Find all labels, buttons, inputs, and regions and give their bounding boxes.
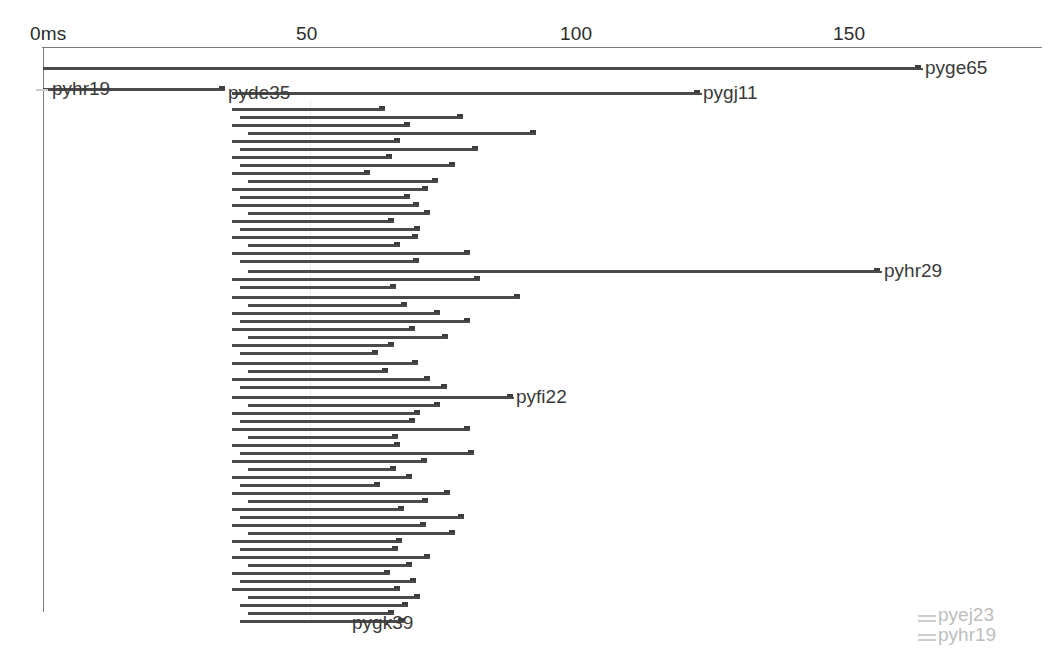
timeline-bar[interactable] bbox=[248, 304, 407, 307]
timeline-bar[interactable] bbox=[232, 108, 385, 111]
timeline-bar[interactable] bbox=[240, 420, 415, 423]
bar-container bbox=[0, 0, 1054, 671]
timeline-bar[interactable] bbox=[240, 352, 378, 355]
timeline-bar[interactable] bbox=[240, 286, 396, 289]
timeline-bar[interactable] bbox=[248, 336, 448, 339]
timeline-bar[interactable] bbox=[248, 564, 412, 567]
timeline-bar[interactable] bbox=[232, 524, 426, 527]
timeline-bar[interactable] bbox=[240, 148, 478, 151]
timeline-bar[interactable] bbox=[248, 132, 536, 135]
timeline-bar[interactable] bbox=[232, 296, 520, 299]
timeline-bar-cap bbox=[402, 602, 408, 605]
timeline-bar[interactable] bbox=[248, 270, 880, 273]
timeline-bar-cap bbox=[464, 250, 470, 253]
timeline-bar-cap bbox=[382, 368, 388, 371]
timeline-bar[interactable] bbox=[232, 344, 394, 347]
timeline-bar[interactable] bbox=[240, 452, 474, 455]
timeline-bar-cap bbox=[434, 402, 440, 405]
timeline-bar[interactable] bbox=[232, 556, 430, 559]
leader-pyhr19 bbox=[36, 89, 48, 91]
leader-pyhr29 bbox=[866, 271, 882, 273]
timeline-bar[interactable] bbox=[240, 320, 470, 323]
timeline-bar[interactable] bbox=[232, 156, 392, 159]
span-label-pygk39[interactable]: pygk39 bbox=[352, 613, 413, 632]
timeline-bar[interactable] bbox=[248, 404, 440, 407]
timeline-bar[interactable] bbox=[232, 460, 427, 463]
timeline-bar[interactable] bbox=[232, 444, 400, 447]
timeline-bar[interactable] bbox=[232, 252, 470, 255]
timeline-bar-cap bbox=[394, 138, 400, 141]
timeline-bar[interactable] bbox=[232, 172, 370, 175]
timeline-bar-cap bbox=[409, 326, 415, 329]
timeline-bar-cap bbox=[464, 318, 470, 321]
leader-pyej23-b bbox=[918, 620, 936, 622]
timeline-bar[interactable] bbox=[240, 604, 408, 607]
timeline-bar[interactable] bbox=[248, 180, 438, 183]
span-label-pyhr19[interactable]: pyhr19 bbox=[52, 79, 110, 98]
timeline-bar[interactable] bbox=[232, 312, 440, 315]
timeline-bar-cap bbox=[414, 410, 420, 413]
timeline-bar[interactable] bbox=[240, 116, 463, 119]
timeline-bar[interactable] bbox=[248, 532, 455, 535]
timeline-bar[interactable] bbox=[248, 500, 428, 503]
timeline-bar[interactable] bbox=[248, 244, 400, 247]
timeline-bar-cap bbox=[444, 490, 450, 493]
timeline-bar[interactable] bbox=[232, 572, 390, 575]
timeline-bar-cap bbox=[219, 86, 225, 89]
timeline-bar[interactable] bbox=[248, 212, 430, 215]
timeline-bar[interactable] bbox=[232, 362, 418, 365]
timeline-bar[interactable] bbox=[232, 396, 513, 399]
leader-pyej23 bbox=[918, 615, 936, 617]
timeline-bar-cap bbox=[434, 310, 440, 313]
timeline-bar-cap bbox=[413, 202, 419, 205]
timeline-bar[interactable] bbox=[232, 492, 450, 495]
timeline-bar-cap bbox=[394, 586, 400, 589]
timeline-bar[interactable] bbox=[240, 228, 420, 231]
timeline-bar[interactable] bbox=[232, 236, 418, 239]
timeline-bar[interactable] bbox=[232, 140, 400, 143]
span-label-pyhr29[interactable]: pyhr29 bbox=[884, 261, 942, 280]
leader-pyhr19-faint-b bbox=[918, 639, 936, 641]
timeline-bar[interactable] bbox=[248, 370, 388, 373]
timeline-bar-cap bbox=[414, 226, 420, 229]
timeline-bar[interactable] bbox=[232, 540, 402, 543]
timeline-bar[interactable] bbox=[240, 260, 419, 263]
timeline-bar[interactable] bbox=[43, 67, 921, 70]
timeline-bar-cap bbox=[530, 130, 536, 133]
timeline-bar-cap bbox=[384, 570, 390, 573]
timeline-bar[interactable] bbox=[240, 386, 447, 389]
timeline-bar[interactable] bbox=[232, 278, 480, 281]
span-label-pyfi22[interactable]: pyfi22 bbox=[516, 387, 567, 406]
timeline-bar-cap bbox=[392, 546, 398, 549]
timeline-bar[interactable] bbox=[232, 476, 412, 479]
timeline-bar-cap bbox=[398, 506, 404, 509]
timeline-bar[interactable] bbox=[232, 204, 419, 207]
timeline-bar-cap bbox=[394, 242, 400, 245]
timeline-bar[interactable] bbox=[240, 164, 455, 167]
timeline-bar[interactable] bbox=[232, 220, 394, 223]
timeline-bar-cap bbox=[388, 218, 394, 221]
timeline-bar[interactable] bbox=[232, 588, 400, 591]
span-label-pyej23[interactable]: pyej23 bbox=[938, 605, 994, 624]
span-label-pyde35[interactable]: pyde35 bbox=[228, 83, 290, 102]
span-label-pyhr19-faint[interactable]: pyhr19 bbox=[938, 625, 996, 644]
timeline-bar[interactable] bbox=[240, 516, 464, 519]
timeline-bar[interactable] bbox=[248, 596, 420, 599]
timeline-bar[interactable] bbox=[232, 328, 415, 331]
timeline-bar[interactable] bbox=[240, 580, 416, 583]
timeline-bar[interactable] bbox=[240, 548, 398, 551]
timeline-bar[interactable] bbox=[232, 428, 470, 431]
span-label-pygj11[interactable]: pygj11 bbox=[703, 83, 758, 102]
timeline-bar[interactable] bbox=[232, 412, 420, 415]
timeline-bar[interactable] bbox=[232, 124, 410, 127]
timeline-bar[interactable] bbox=[232, 378, 430, 381]
timeline-bar-cap bbox=[394, 442, 400, 445]
timeline-bar[interactable] bbox=[232, 188, 428, 191]
timeline-bar[interactable] bbox=[240, 484, 380, 487]
timeline-bar[interactable] bbox=[232, 508, 404, 511]
timeline-bar[interactable] bbox=[248, 468, 396, 471]
timeline-bar[interactable] bbox=[240, 196, 410, 199]
timeline-bar[interactable] bbox=[232, 92, 700, 95]
span-label-pyge65[interactable]: pyge65 bbox=[925, 58, 987, 77]
timeline-bar[interactable] bbox=[248, 436, 398, 439]
